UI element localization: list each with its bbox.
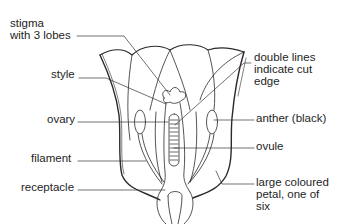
label-ovule: ovule [256,140,284,152]
label-double-lines: double lines indicate cut edge [254,51,315,87]
label-receptacle: receptacle [21,181,74,193]
label-petal-line1: large coloured [256,176,329,188]
label-double-lines-line1: double lines [254,51,315,63]
label-petal-line2: petal, one of [256,188,329,200]
label-style: style [51,68,75,80]
anther-right [207,110,218,134]
label-stigma-line1: stigma [10,17,71,29]
label-filament: filament [31,152,71,164]
receptacle [157,192,166,224]
label-double-lines-line2: indicate cut [254,63,315,75]
petal-rim [100,45,244,55]
label-anther: anther (black) [256,112,326,124]
label-petal-line3: six [256,200,329,212]
label-stigma: stigma with 3 lobes [10,17,71,41]
label-double-lines-line3: edge [254,75,315,87]
label-petal: large coloured petal, one of six [256,176,329,212]
label-ovary: ovary [47,113,75,125]
outer-petal-left [100,55,160,200]
label-stigma-line2: with 3 lobes [10,29,71,41]
flower-section-diagram: stigma with 3 lobes style ovary filament… [0,0,343,224]
